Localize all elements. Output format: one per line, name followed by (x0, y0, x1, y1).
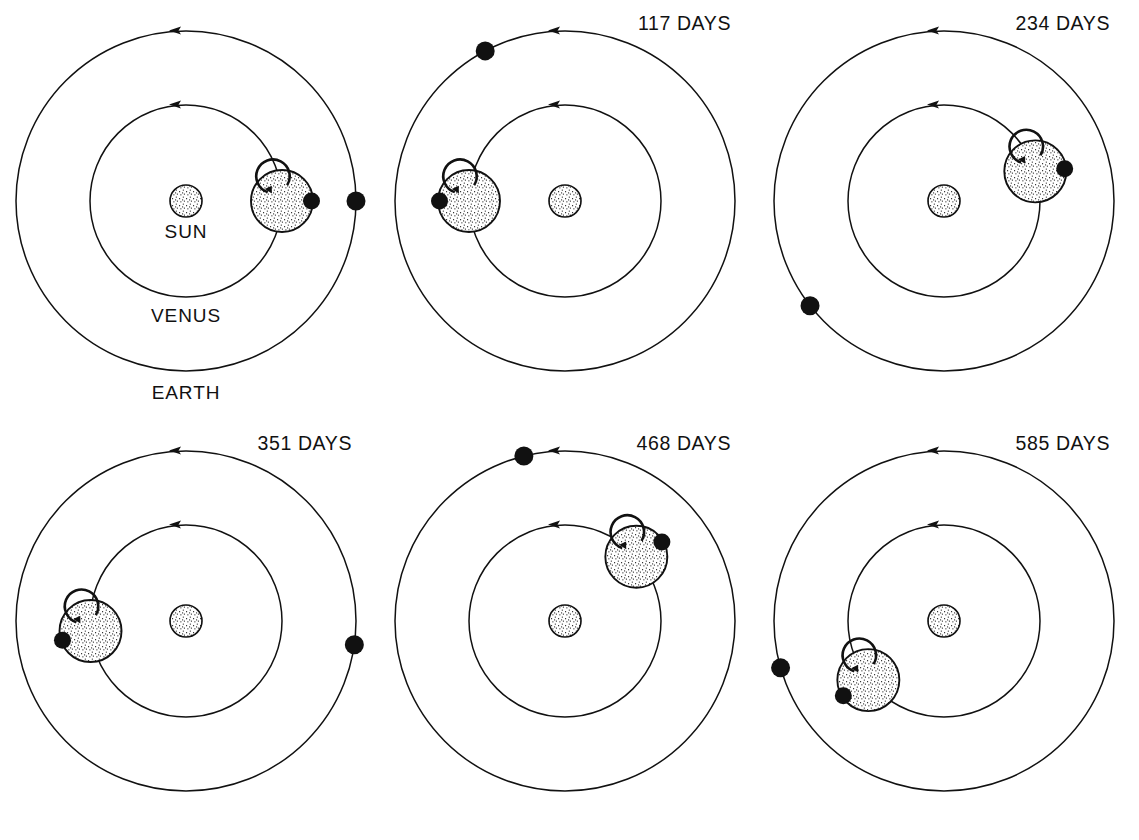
orbit-direction-arrows (927, 446, 939, 528)
elapsed-days-label: 468 DAYS (637, 432, 731, 454)
orbit-panel: 234 DAYS (758, 0, 1137, 420)
venus-surface-marker (1056, 160, 1073, 177)
venus-surface-marker (54, 632, 71, 649)
orbit-panel: SUNVENUSEARTH (0, 0, 379, 420)
venus-surface-marker (835, 687, 852, 704)
orbit-panel: 351 DAYS (0, 420, 379, 840)
venus-surface-marker (431, 193, 448, 210)
elapsed-days-label: 234 DAYS (1016, 12, 1110, 34)
earth-dot (514, 447, 533, 466)
venus-disc (60, 600, 122, 662)
figure-canvas: SUNVENUSEARTH117 DAYS234 DAYS351 DAYS468… (0, 0, 1139, 840)
sun-disc (170, 605, 202, 637)
sun-disc (928, 605, 960, 637)
earth-label: EARTH (152, 382, 221, 403)
sun-disc (170, 185, 202, 217)
orbit-direction-arrows (927, 26, 939, 108)
venus-label: VENUS (151, 305, 221, 326)
elapsed-days-label: 117 DAYS (638, 12, 731, 34)
venus-body-group (1004, 130, 1073, 203)
sun-label: SUN (165, 221, 208, 242)
elapsed-days-label: 351 DAYS (258, 432, 352, 454)
orbit-panel: 117 DAYS (379, 0, 758, 420)
earth-dot (801, 296, 820, 315)
orbit-direction-arrows (548, 26, 560, 108)
earth-dot (476, 41, 495, 60)
orbit-direction-arrows (169, 446, 181, 528)
venus-surface-marker (303, 193, 320, 210)
earth-dot (345, 635, 364, 654)
sun-disc (549, 185, 581, 217)
sun-disc (549, 605, 581, 637)
earth-dot (347, 192, 366, 211)
elapsed-days-label: 585 DAYS (1016, 432, 1110, 454)
venus-body-group (54, 590, 122, 663)
venus-surface-marker (653, 534, 670, 551)
orbit-direction-arrows (169, 26, 181, 108)
venus-body-group (251, 159, 320, 232)
sun-disc (928, 185, 960, 217)
orbit-panel: 585 DAYS (758, 420, 1137, 840)
venus-body-group (431, 159, 500, 232)
venus-body-group (835, 639, 900, 712)
orbit-direction-arrows (548, 446, 560, 528)
earth-dot (771, 658, 790, 677)
orbit-panel: 468 DAYS (379, 420, 758, 840)
venus-body-group (605, 515, 670, 588)
